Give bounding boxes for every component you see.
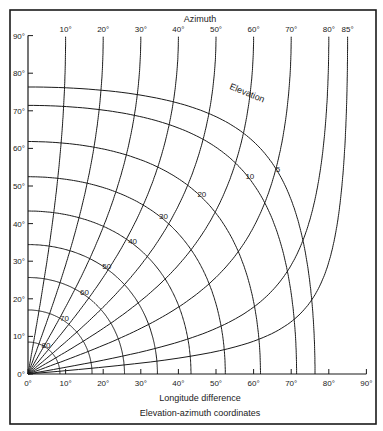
top-axis-label: Azimuth (184, 14, 217, 24)
elevation-label: 40 (128, 237, 137, 246)
y-tick-label: 60° (13, 144, 25, 153)
elevation-label: 60 (80, 288, 89, 297)
x-tick-label: 80° (323, 379, 335, 388)
x-tick-label: 40° (172, 379, 184, 388)
x-tick-label: 70° (285, 379, 297, 388)
y-tick-label: 90° (13, 32, 25, 41)
elevation-curve (28, 105, 297, 374)
azimuth-label: 80° (323, 25, 335, 34)
chart-title: Elevation-azimuth coordinates (140, 408, 261, 418)
azimuth-label: 85° (342, 25, 354, 34)
labels: 0°10°20°30°40°50°60°70°80°90°0°10°20°30°… (13, 25, 373, 388)
elevation-label: 30 (159, 212, 168, 221)
y-tick-label: 0° (17, 370, 25, 379)
azimuth-label: 40° (172, 25, 184, 34)
x-tick-label: 30° (135, 379, 147, 388)
y-tick-label: 50° (13, 182, 25, 191)
elevation-family-label: Elevation (228, 81, 266, 104)
elevation-label: 80 (41, 341, 50, 350)
elevation-curves (28, 87, 315, 374)
azimuth-label: 50° (210, 25, 222, 34)
y-tick-label: 10° (13, 332, 25, 341)
azimuth-label: 70° (285, 25, 297, 34)
azimuth-label: 60° (248, 25, 260, 34)
elevation-label: 70 (60, 314, 69, 323)
azimuth-label: 30° (135, 25, 147, 34)
azimuth-curve (28, 37, 348, 374)
y-tick-label: 40° (13, 220, 25, 229)
azimuth-label: 10° (60, 25, 72, 34)
x-tick-label: 10° (60, 379, 72, 388)
elevation-curve (28, 245, 157, 374)
elevation-curve (28, 211, 191, 374)
elevation-label: 50 (102, 262, 111, 271)
x-tick-label: 60° (248, 379, 260, 388)
x-tick-label: 0° (24, 379, 32, 388)
y-tick-label: 70° (13, 107, 25, 116)
elevation-curve (28, 87, 315, 374)
elevation-azimuth-chart: 0°10°20°30°40°50°60°70°80°90°0°10°20°30°… (0, 0, 383, 431)
x-tick-label: 50° (210, 379, 222, 388)
azimuth-curves (28, 37, 348, 374)
elevation-curve (28, 142, 261, 375)
y-tick-label: 20° (13, 295, 25, 304)
elevation-label: 5 (276, 165, 281, 174)
elevation-label: 10 (245, 172, 254, 181)
elevation-curve (28, 177, 225, 374)
x-tick-label: 90° (360, 379, 372, 388)
y-tick-label: 30° (13, 257, 25, 266)
y-tick-label: 80° (13, 69, 25, 78)
x-tick-label: 20° (97, 379, 109, 388)
axes (28, 36, 366, 374)
x-axis-label: Longitude difference (159, 393, 240, 403)
elevation-label: 20 (197, 190, 206, 199)
azimuth-label: 20° (97, 25, 109, 34)
